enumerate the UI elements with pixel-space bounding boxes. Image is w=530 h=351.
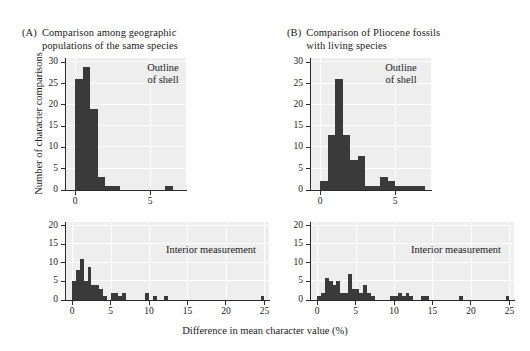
x-axis-tick-label: 5 [138, 196, 162, 206]
y-axis-tick-label: 25 [36, 78, 58, 88]
y-axis-tick [306, 300, 310, 301]
y-axis-tick-label: 10 [36, 257, 58, 267]
histogram-bar [122, 293, 126, 300]
y-axis-tick-label: 30 [36, 56, 58, 66]
y-axis-tick [306, 168, 310, 169]
y-axis-tick-label: 10 [36, 141, 58, 151]
x-axis-tick-label: 0 [305, 306, 329, 316]
y-axis-tick [306, 190, 310, 191]
plot-area [66, 222, 269, 300]
y-axis-tick-label: 15 [281, 238, 303, 248]
gridline-vertical [187, 222, 188, 300]
x-axis-tick-label: 10 [382, 306, 406, 316]
gridline-horizontal [311, 104, 431, 105]
figure-root: (A) Comparison among geographic populati… [0, 0, 530, 351]
y-axis-tick [61, 168, 65, 169]
x-axis-tick-label: 5 [383, 196, 407, 206]
y-axis-tick [61, 190, 65, 191]
x-axis-line [310, 300, 515, 301]
y-axis-tick [61, 300, 65, 301]
panel-tag-b: (B) [287, 26, 301, 39]
y-axis-tick-label: 0 [36, 294, 58, 304]
gridline-horizontal [66, 225, 269, 226]
x-axis-tick-label: 15 [420, 306, 444, 316]
gridline-horizontal [66, 280, 269, 281]
x-axis-tick [149, 301, 150, 305]
gridline-vertical [509, 222, 510, 300]
histogram-bar [320, 181, 328, 190]
y-axis-tick [306, 83, 310, 84]
y-axis-tick-label: 15 [36, 238, 58, 248]
histogram-bar [98, 177, 106, 190]
histogram-bar [335, 79, 343, 190]
histogram-bar [350, 160, 358, 190]
histogram-bar [343, 135, 351, 190]
y-axis-tick-label: 20 [281, 220, 303, 230]
x-axis-tick [187, 301, 188, 305]
x-axis-tick-label: 5 [99, 306, 123, 316]
y-axis-tick [306, 126, 310, 127]
x-axis-tick [317, 301, 318, 305]
chart-b-interior-measurement: Interior measurement051015200510152025 [311, 222, 514, 300]
y-axis-tick [306, 244, 310, 245]
y-axis-tick [61, 62, 65, 63]
gridline-horizontal [311, 280, 514, 281]
histogram-bar [358, 156, 366, 190]
gridline-vertical [149, 222, 150, 300]
y-axis-line [310, 222, 311, 300]
y-axis-tick-label: 10 [281, 257, 303, 267]
gridline-horizontal [66, 262, 269, 263]
y-axis-tick-label: 10 [281, 141, 303, 151]
gridline-horizontal [311, 262, 514, 263]
y-axis-tick-label: 30 [281, 56, 303, 66]
y-axis-tick [306, 281, 310, 282]
x-axis-tick [432, 301, 433, 305]
y-axis-tick [61, 83, 65, 84]
y-axis-tick [306, 62, 310, 63]
x-axis-tick [264, 301, 265, 305]
plot-inline-title: Interior measurement [396, 244, 516, 256]
y-axis-tick [306, 262, 310, 263]
x-axis-tick [394, 301, 395, 305]
plot-inline-title: Outline of shell [366, 62, 436, 86]
y-axis-tick [61, 262, 65, 263]
x-axis-tick-label: 15 [175, 306, 199, 316]
x-axis-tick-label: 0 [63, 196, 87, 206]
gridline-horizontal [311, 125, 431, 126]
histogram-bar [75, 79, 83, 190]
x-axis-label: Difference in mean character value (%) [0, 325, 530, 336]
histogram-bar [90, 109, 98, 190]
histogram-bar [145, 293, 149, 300]
x-axis-tick [75, 191, 76, 195]
x-axis-tick [150, 191, 151, 195]
x-axis-tick-label: 10 [137, 306, 161, 316]
y-axis-tick-label: 5 [36, 275, 58, 285]
gridline-vertical [264, 222, 265, 300]
gridline-vertical [394, 222, 395, 300]
y-axis-tick [61, 104, 65, 105]
y-axis-tick-label: 20 [281, 99, 303, 109]
plot-area [311, 222, 514, 300]
chart-a-outline-of-shell: Outline of shell05101520253005 [66, 58, 186, 190]
gridline-vertical [111, 222, 112, 300]
y-axis-tick [306, 147, 310, 148]
x-axis-tick-label: 0 [308, 196, 332, 206]
y-axis-tick-label: 20 [36, 220, 58, 230]
y-axis-tick-label: 0 [281, 184, 303, 194]
y-axis-tick-label: 5 [281, 275, 303, 285]
y-axis-tick-label: 25 [281, 78, 303, 88]
histogram-bar [388, 181, 396, 190]
y-axis-tick [61, 147, 65, 148]
y-axis-tick [306, 225, 310, 226]
histogram-bar [328, 135, 336, 190]
x-axis-tick-label: 20 [459, 306, 483, 316]
x-axis-tick [395, 191, 396, 195]
x-axis-tick [320, 191, 321, 195]
x-axis-line [65, 190, 187, 191]
x-axis-tick-label: 25 [252, 306, 276, 316]
x-axis-tick [72, 301, 73, 305]
panel-title-b: Comparison of Pliocene fossils with livi… [306, 26, 440, 52]
x-axis-tick-label: 25 [497, 306, 521, 316]
chart-a-interior-measurement: Interior measurement051015200510152025 [66, 222, 269, 300]
x-axis-tick [355, 301, 356, 305]
